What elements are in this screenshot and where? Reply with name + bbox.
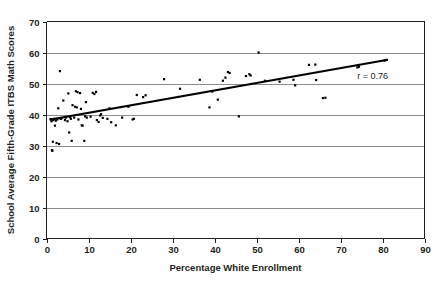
- data-point: [90, 116, 92, 118]
- data-point: [217, 99, 219, 101]
- data-point: [86, 117, 88, 119]
- data-point: [67, 92, 69, 94]
- y-tick-label: 50: [29, 79, 40, 90]
- y-tick-label: 30: [29, 141, 40, 152]
- data-point: [224, 77, 226, 79]
- data-point: [136, 94, 138, 96]
- y-tick-label: 20: [29, 172, 40, 183]
- data-point: [59, 70, 61, 72]
- data-point: [208, 106, 210, 108]
- x-axis-title: Percentage White Enrollment: [170, 262, 303, 273]
- x-tick-label: 0: [45, 244, 50, 255]
- y-tick-label: 40: [29, 110, 40, 121]
- data-point: [102, 117, 104, 119]
- x-tick-label: 70: [336, 244, 347, 255]
- x-tick-label: 40: [210, 244, 221, 255]
- data-point: [250, 74, 252, 76]
- data-point: [133, 118, 135, 120]
- data-point: [77, 118, 79, 120]
- data-point: [95, 91, 97, 93]
- data-point: [97, 121, 99, 123]
- y-axis-title: School Average Fifth-Grade ITBS Math Sco…: [5, 26, 16, 234]
- x-tick-label: 80: [378, 244, 389, 255]
- y-tick-label: 0: [34, 234, 39, 245]
- data-point: [76, 106, 78, 108]
- data-point: [93, 93, 95, 95]
- data-point: [222, 80, 224, 82]
- data-point: [58, 143, 60, 145]
- data-point: [322, 97, 324, 99]
- data-point: [315, 79, 317, 81]
- data-point: [179, 88, 181, 90]
- x-tick-label: 10: [84, 244, 95, 255]
- data-point: [324, 97, 326, 99]
- data-point: [64, 119, 66, 121]
- data-point: [55, 142, 57, 144]
- data-point: [73, 117, 75, 119]
- data-point: [142, 96, 144, 98]
- data-point: [199, 79, 201, 81]
- data-point: [57, 107, 59, 109]
- x-tick-label: 90: [420, 244, 431, 255]
- data-point: [100, 113, 102, 115]
- data-point: [245, 75, 247, 77]
- chart-canvas: 010203040506070 0102030405060708090 r = …: [0, 0, 443, 281]
- y-tick-label: 70: [29, 17, 40, 28]
- data-point: [238, 115, 240, 117]
- data-point: [80, 108, 82, 110]
- data-point: [70, 118, 72, 120]
- x-tick-label: 60: [294, 244, 305, 255]
- data-point: [76, 91, 78, 93]
- scatter-plot-figure: 010203040506070 0102030405060708090 r = …: [0, 0, 443, 281]
- data-point: [79, 92, 81, 94]
- data-point: [82, 125, 84, 127]
- data-point: [110, 121, 112, 123]
- data-point: [83, 140, 85, 142]
- data-point: [258, 51, 260, 53]
- x-tick-label: 30: [168, 244, 179, 255]
- correlation-annotation: r = 0.76: [357, 71, 388, 81]
- y-tick-label: 60: [29, 48, 40, 59]
- x-tick-label: 20: [126, 244, 137, 255]
- x-tick-label: 50: [252, 244, 263, 255]
- data-point: [145, 94, 147, 96]
- y-tick-label: 10: [29, 203, 40, 214]
- data-point: [71, 104, 73, 106]
- data-point: [54, 125, 56, 127]
- data-point: [163, 78, 165, 80]
- data-point: [308, 64, 310, 66]
- data-point: [279, 81, 281, 83]
- data-point: [71, 140, 73, 142]
- data-point: [314, 63, 316, 65]
- data-point: [85, 101, 87, 103]
- data-point: [115, 124, 117, 126]
- data-point: [52, 141, 54, 143]
- data-point: [229, 72, 231, 74]
- data-point: [62, 99, 64, 101]
- data-point: [66, 120, 68, 122]
- data-point: [292, 79, 294, 81]
- data-point: [68, 131, 70, 133]
- data-point: [121, 117, 123, 119]
- data-point: [294, 84, 296, 86]
- data-point: [106, 118, 108, 120]
- data-point: [51, 150, 53, 152]
